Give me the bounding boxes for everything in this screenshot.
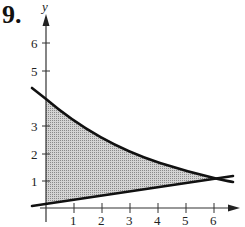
y-tick-label: 5 xyxy=(31,64,38,79)
x-tick-label: 6 xyxy=(210,213,217,227)
plot: 1 2 3 5 6 1 2 3 4 5 6 y xyxy=(0,0,245,227)
x-tick-label: 4 xyxy=(154,213,161,227)
x-axis-arrow-icon xyxy=(228,205,240,212)
x-tick-label: 3 xyxy=(126,213,133,227)
x-tick-label: 1 xyxy=(70,213,77,227)
x-tick-label: 5 xyxy=(182,213,189,227)
y-axis-label: y xyxy=(40,0,48,14)
y-tick-label: 6 xyxy=(31,36,38,51)
x-tick-label: 2 xyxy=(98,213,105,227)
y-tick-label: 2 xyxy=(31,147,38,162)
y-axis-arrow-icon xyxy=(43,14,50,26)
y-tick-label: 1 xyxy=(31,174,38,189)
y-tick-label: 3 xyxy=(31,119,38,134)
